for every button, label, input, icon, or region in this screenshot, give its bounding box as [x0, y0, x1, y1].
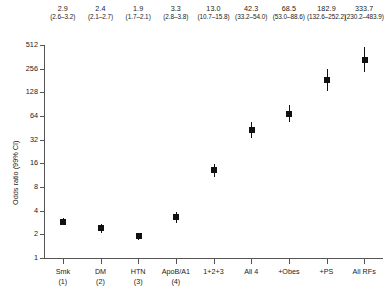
y-tick-label: 4 [6, 207, 38, 214]
y-tick-mark [40, 187, 44, 188]
y-tick-mark [40, 163, 44, 164]
y-tick-label: 128 [6, 88, 38, 95]
y-tick-mark [40, 211, 44, 212]
annotation-column: 333.7(230.2–483.9) [327, 5, 389, 21]
x-tick-mark [364, 259, 365, 264]
y-tick-label: 2 [6, 230, 38, 237]
y-tick-label: 32 [6, 136, 38, 143]
data-point-marker [249, 127, 255, 133]
y-tick-mark [40, 116, 44, 117]
x-tick-mark [251, 259, 252, 264]
data-point-marker [324, 77, 330, 83]
annotation-odds-ratio: 333.7 [327, 5, 389, 12]
y-tick-label: 8 [6, 183, 38, 190]
x-tick-mark [101, 259, 102, 264]
annotation-confidence-interval: (230.2–483.9) [327, 14, 389, 20]
data-point-marker [173, 214, 179, 220]
y-tick-mark [40, 234, 44, 235]
data-point-marker [286, 111, 292, 117]
x-tick-mark [327, 259, 328, 264]
y-tick-mark [40, 45, 44, 46]
data-point-marker [362, 57, 368, 63]
x-tick-mark [176, 259, 177, 264]
x-tick-mark [289, 259, 290, 264]
x-tick-label-index: (4) [142, 278, 210, 286]
data-point-marker [211, 167, 217, 173]
x-tick-mark [138, 259, 139, 264]
y-tick-label: 256 [6, 65, 38, 72]
data-point-marker [136, 233, 142, 239]
data-point-marker [98, 225, 104, 231]
y-tick-mark [40, 69, 44, 70]
y-tick-mark [40, 140, 44, 141]
y-tick-label: 1 [6, 254, 38, 261]
y-tick-label: 64 [6, 112, 38, 119]
y-tick-mark [40, 92, 44, 93]
y-axis-title: Odds ratio (99% CI) [11, 141, 20, 205]
x-tick-label: All RFs [330, 268, 389, 276]
y-tick-label: 16 [6, 159, 38, 166]
data-point-marker [60, 219, 66, 225]
x-tick-mark [214, 259, 215, 264]
x-tick-label-name: All RFs [330, 268, 389, 276]
x-tick-mark [63, 259, 64, 264]
y-axis-line [44, 45, 45, 259]
y-tick-label: 512 [6, 41, 38, 48]
y-tick-mark [40, 258, 44, 259]
odds-ratio-forest-plot: 2.9(2.6–3.2)2.4(2.1–2.7)1.9(1.7–2.1)3.3(… [0, 0, 389, 297]
